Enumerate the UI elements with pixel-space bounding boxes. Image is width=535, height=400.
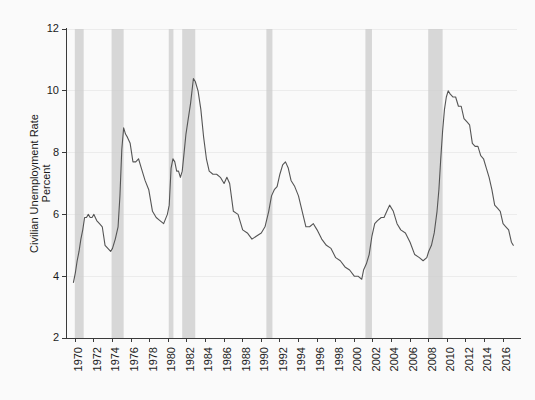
y-tick-label-6: 6 bbox=[53, 208, 59, 220]
x-tick-label-1978: 1978 bbox=[147, 347, 159, 371]
x-tick-label-2004: 2004 bbox=[388, 347, 400, 371]
x-tick-label-2014: 2014 bbox=[481, 347, 493, 371]
x-tick-label-1986: 1986 bbox=[221, 347, 233, 371]
x-tick-label-2002: 2002 bbox=[370, 347, 382, 371]
recession-band-3 bbox=[169, 29, 174, 338]
recession-band-4 bbox=[182, 29, 195, 338]
x-tick-label-1982: 1982 bbox=[184, 347, 196, 371]
data-series bbox=[73, 78, 513, 282]
chart-figure: 24681012 1970197219741976197819801982198… bbox=[0, 0, 535, 400]
unemployment-rate-line-chart: 24681012 1970197219741976197819801982198… bbox=[0, 0, 535, 400]
series-line-1 bbox=[73, 78, 513, 282]
x-tick-label-1990: 1990 bbox=[258, 347, 270, 371]
recession-band-5 bbox=[266, 29, 272, 338]
y-axis-title: Civilian Unemployment RatePercent bbox=[28, 114, 52, 253]
x-tick-label-1976: 1976 bbox=[128, 347, 140, 371]
y-tick-label-8: 8 bbox=[53, 146, 59, 158]
x-tick-label-1998: 1998 bbox=[333, 347, 345, 371]
x-tick-label-2008: 2008 bbox=[426, 347, 438, 371]
x-tick-label-1974: 1974 bbox=[109, 347, 121, 371]
x-tick-label-1972: 1972 bbox=[91, 347, 103, 371]
recession-bands bbox=[75, 29, 443, 338]
x-tick-label-1970: 1970 bbox=[72, 347, 84, 371]
y-tick-label-10: 10 bbox=[47, 84, 59, 96]
recession-band-2 bbox=[112, 29, 124, 338]
recession-band-6 bbox=[365, 29, 372, 338]
x-tick-labels: 1970197219741976197819801982198419861988… bbox=[72, 338, 512, 371]
x-tick-label-1988: 1988 bbox=[240, 347, 252, 371]
screenshot-root: 24681012 1970197219741976197819801982198… bbox=[0, 0, 535, 400]
recession-band-1 bbox=[75, 29, 84, 338]
x-tick-label-1994: 1994 bbox=[295, 347, 307, 371]
y-tick-label-4: 4 bbox=[53, 270, 59, 282]
x-tick-label-2012: 2012 bbox=[463, 347, 475, 371]
y-axis-title-line-1: Civilian Unemployment Rate bbox=[28, 114, 40, 253]
x-tick-label-1996: 1996 bbox=[314, 347, 326, 371]
x-tick-label-1984: 1984 bbox=[202, 347, 214, 371]
gridlines bbox=[66, 29, 517, 338]
x-tick-label-2010: 2010 bbox=[444, 347, 456, 371]
x-tick-label-1980: 1980 bbox=[165, 347, 177, 371]
x-tick-label-2006: 2006 bbox=[407, 347, 419, 371]
recession-band-7 bbox=[428, 29, 442, 338]
axes bbox=[66, 28, 521, 338]
y-axis-title-line-2: Percent bbox=[40, 165, 52, 203]
y-tick-label-12: 12 bbox=[47, 22, 59, 34]
x-tick-label-1992: 1992 bbox=[277, 347, 289, 371]
x-tick-label-2016: 2016 bbox=[500, 347, 512, 371]
x-tick-label-2000: 2000 bbox=[351, 347, 363, 371]
y-tick-label-2: 2 bbox=[53, 331, 59, 343]
